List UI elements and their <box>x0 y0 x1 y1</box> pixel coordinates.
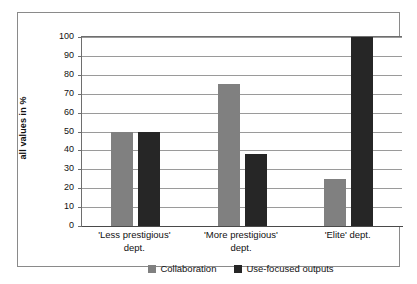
bar <box>351 37 373 226</box>
y-axis-tick-label: 30 <box>44 164 74 173</box>
legend-swatch-icon <box>234 265 242 273</box>
bar <box>324 179 346 226</box>
y-axis-tick-label: 80 <box>44 69 74 78</box>
y-axis-tick-label: 100 <box>44 32 74 41</box>
y-axis-tick-mark <box>78 132 82 133</box>
y-axis-tick-mark <box>78 37 82 38</box>
y-axis-tick-mark <box>78 188 82 189</box>
bar <box>111 132 133 227</box>
y-axis-tick-mark <box>78 94 82 95</box>
legend-entry[interactable]: Use-focused outputs <box>234 264 333 274</box>
y-axis-tick-mark <box>78 113 82 114</box>
y-axis-tick-mark <box>78 169 82 170</box>
plot-area <box>81 36 402 226</box>
x-axis-category-label: 'Elite' dept. <box>294 229 401 242</box>
x-axis-category-labels: 'Less prestigious' dept.'More prestigiou… <box>81 229 401 263</box>
y-axis-tick-mark <box>78 226 82 227</box>
chart-legend: CollaborationUse-focused outputs <box>81 262 401 276</box>
legend-swatch-icon <box>148 265 156 273</box>
y-axis-tick-labels: 1009080706050403020100 <box>44 36 74 225</box>
chart-figure-frame: all values in % 1009080706050403020100 '… <box>17 12 400 267</box>
y-axis-title: all values in % <box>16 73 30 183</box>
legend-label: Use-focused outputs <box>246 264 333 274</box>
y-axis-tick-label: 50 <box>44 126 74 135</box>
bar <box>138 132 160 227</box>
y-axis-tick-label: 0 <box>44 221 74 230</box>
y-axis-tick-label: 10 <box>44 202 74 211</box>
y-axis-tick-mark <box>78 150 82 151</box>
y-axis-tick-label: 40 <box>44 145 74 154</box>
y-axis-tick-label: 70 <box>44 88 74 97</box>
y-axis-tick-mark <box>78 207 82 208</box>
legend-entry[interactable]: Collaboration <box>148 264 216 274</box>
y-axis-tick-label: 20 <box>44 183 74 192</box>
y-axis-tick-mark <box>78 75 82 76</box>
bar <box>245 154 267 226</box>
y-axis-tick-mark <box>78 56 82 57</box>
y-axis-tick-label: 60 <box>44 107 74 116</box>
x-axis-line <box>81 226 403 227</box>
legend-label: Collaboration <box>160 264 216 274</box>
bar <box>218 84 240 226</box>
x-axis-category-label: 'More prestigious' dept. <box>188 229 295 254</box>
y-axis-tick-label: 90 <box>44 50 74 59</box>
x-axis-category-label: 'Less prestigious' dept. <box>81 229 188 254</box>
